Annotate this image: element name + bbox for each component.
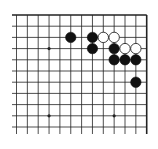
black-stone[interactable]: [109, 43, 119, 53]
go-board[interactable]: [0, 0, 158, 149]
black-stone[interactable]: [120, 55, 130, 65]
black-stone[interactable]: [87, 32, 97, 42]
black-stone[interactable]: [131, 77, 141, 87]
white-stone[interactable]: [120, 43, 130, 53]
star-point: [47, 114, 50, 117]
white-stone[interactable]: [131, 43, 141, 53]
black-stone[interactable]: [109, 55, 119, 65]
black-stone[interactable]: [87, 43, 97, 53]
white-stone[interactable]: [98, 32, 108, 42]
board-grid: [12, 15, 147, 134]
white-stone[interactable]: [109, 32, 119, 42]
star-point: [113, 114, 116, 117]
black-stone[interactable]: [66, 32, 76, 42]
black-stone[interactable]: [131, 55, 141, 65]
star-point: [47, 47, 50, 50]
